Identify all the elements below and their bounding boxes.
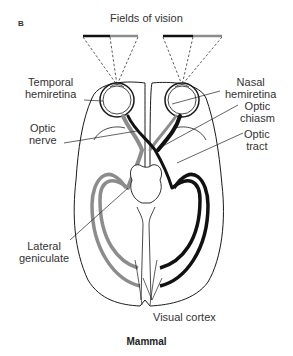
- right-eye: [165, 83, 199, 117]
- fields-of-vision-title: Fields of vision: [110, 12, 183, 24]
- label-line: nerve: [29, 134, 57, 146]
- label-nasal-hemiretina: Nasal hemiretina: [225, 76, 276, 100]
- label-line: hemiretina: [25, 88, 76, 100]
- label-line: Lateral: [19, 240, 69, 252]
- label-line: hemiretina: [225, 88, 276, 100]
- label-optic-chiasm: Optic chiasm: [240, 100, 275, 124]
- label-optic-nerve: Optic nerve: [29, 122, 57, 146]
- label-optic-tract: Optic tract: [244, 128, 270, 152]
- figure-caption: Mammal: [0, 336, 293, 347]
- visual-pathway-diagram: [0, 0, 293, 356]
- label-lateral-geniculate: Lateral geniculate: [19, 240, 69, 264]
- label-line: Optic: [244, 128, 270, 140]
- midbrain: [130, 165, 161, 203]
- label-visual-cortex: Visual cortex: [153, 311, 216, 323]
- label-line: Optic: [240, 100, 275, 112]
- label-temporal-hemiretina: Temporal hemiretina: [25, 76, 76, 100]
- label-line: tract: [244, 140, 270, 152]
- label-line: chiasm: [240, 112, 275, 124]
- left-eye: [100, 83, 134, 117]
- label-line: geniculate: [19, 252, 69, 264]
- label-line: Optic: [29, 122, 57, 134]
- optic-radiations-right: [160, 174, 208, 286]
- label-line: Temporal: [25, 76, 76, 88]
- label-line: Nasal: [225, 76, 276, 88]
- panel-letter: B: [18, 19, 24, 28]
